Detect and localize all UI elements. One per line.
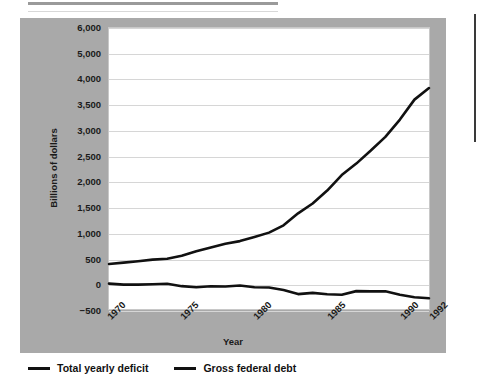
y-axis-tick-label: 6,000 bbox=[41, 22, 101, 33]
y-axis-tick-label: 3,000 bbox=[41, 124, 101, 135]
y-axis-tick-label: 4,000 bbox=[41, 73, 101, 84]
chart-page: Billions of dollars 6,0005,0004,0003,500… bbox=[0, 0, 483, 385]
page-right-rule bbox=[474, 14, 476, 142]
y-axis-tick-label: 2,500 bbox=[41, 150, 101, 161]
chart-panel: Billions of dollars 6,0005,0004,0003,500… bbox=[20, 18, 446, 353]
y-axis-tick-label: 1,000 bbox=[41, 227, 101, 238]
legend-label: Total yearly deficit bbox=[57, 362, 148, 374]
legend-item: Gross federal debt bbox=[174, 362, 296, 374]
chart-legend: Total yearly deficitGross federal debt bbox=[28, 362, 296, 374]
legend-swatch-icon bbox=[28, 367, 50, 370]
y-axis-tick-label: 5,000 bbox=[41, 47, 101, 58]
y-axis-tick-label: 0 bbox=[41, 279, 101, 290]
plot-area bbox=[108, 27, 430, 310]
y-axis-title: Billions of dollars bbox=[48, 128, 59, 208]
y-axis-tick-label: 3,500 bbox=[41, 99, 101, 110]
y-axis-tick-label: 1,500 bbox=[41, 202, 101, 213]
legend-label: Gross federal debt bbox=[203, 362, 296, 374]
series-line bbox=[109, 88, 429, 264]
plot-inner bbox=[109, 28, 429, 309]
y-axis-tick-label: 500 bbox=[41, 253, 101, 264]
legend-item: Total yearly deficit bbox=[28, 362, 148, 374]
x-axis-tick-label: 1992 bbox=[427, 299, 450, 322]
y-axis-tick-label: 2,000 bbox=[41, 176, 101, 187]
series-line bbox=[109, 284, 429, 299]
series-lines bbox=[109, 28, 429, 309]
legend-swatch-icon bbox=[174, 367, 196, 370]
y-axis-tick-label: −500 bbox=[41, 305, 101, 316]
x-axis-title: Year bbox=[20, 336, 446, 347]
page-top-rule bbox=[28, 2, 278, 5]
page-top-rule-secondary bbox=[28, 11, 278, 12]
